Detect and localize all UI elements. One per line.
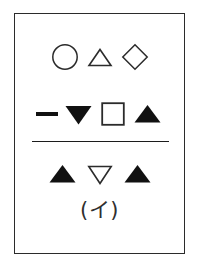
dash-mark-icon [36, 112, 58, 116]
divider-rule [32, 141, 169, 142]
triangle-up-outline-icon [86, 43, 114, 71]
figure-label: (イ) [15, 200, 184, 221]
triangle-down-filled-icon [63, 99, 94, 129]
triangle-up-filled-icon [47, 160, 78, 188]
diamond-outline-icon [120, 42, 150, 72]
triangle-down-outline-icon [86, 161, 114, 188]
figure-panel: (イ) [14, 13, 185, 254]
square-outline-icon [99, 100, 127, 128]
circle-outline-icon [50, 42, 80, 72]
symbol-row-2 [15, 96, 184, 132]
symbol-row-1 [15, 39, 184, 75]
symbol-row-3 [15, 157, 184, 191]
triangle-up-filled-icon [122, 160, 153, 188]
triangle-up-filled-icon [132, 99, 163, 129]
